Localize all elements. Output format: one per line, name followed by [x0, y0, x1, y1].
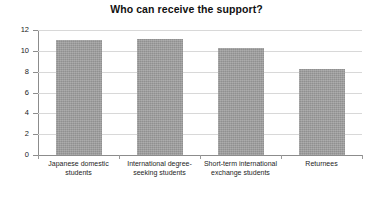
- bar: [218, 48, 264, 155]
- bar: [137, 39, 183, 155]
- y-tick-label: 0: [3, 151, 29, 159]
- y-tick-label: 10: [3, 47, 29, 55]
- x-tick-mark: [119, 155, 120, 159]
- y-tick-label: 8: [3, 68, 29, 76]
- y-tick-label: 12: [3, 26, 29, 34]
- x-tick-mark: [362, 155, 363, 159]
- y-tick-label: 4: [3, 109, 29, 117]
- x-tick-mark: [38, 155, 39, 159]
- bar: [56, 40, 102, 155]
- x-tick-label: Short-term international exchange studen…: [200, 160, 281, 177]
- x-tick-mark: [200, 155, 201, 159]
- bar-chart: Who can receive the support? 024681012 J…: [0, 0, 373, 207]
- plot-area: [38, 30, 362, 155]
- y-tick-label: 6: [3, 89, 29, 97]
- chart-title: Who can receive the support?: [0, 3, 373, 15]
- x-tick-mark: [281, 155, 282, 159]
- x-tick-label: Japanese domestic students: [38, 160, 119, 177]
- x-tick-label: International degree-seeking students: [119, 160, 200, 177]
- x-tick-label: Returnees: [281, 160, 362, 169]
- y-tick-label: 2: [3, 130, 29, 138]
- bar: [299, 69, 345, 155]
